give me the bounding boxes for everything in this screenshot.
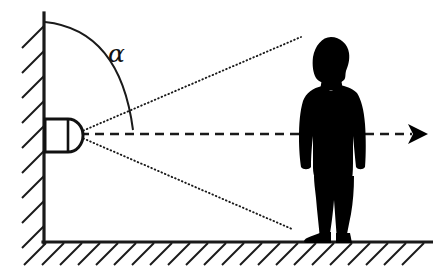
person-torso [299,85,366,179]
person-silhouette [299,37,366,243]
sensor-angle-diagram: α [0,0,433,272]
person-legs [314,176,354,240]
wall [22,13,44,248]
angle-label-alpha: α [108,39,125,68]
lower-detection-ray [80,137,292,229]
ground-hatching [24,243,424,265]
diagram-canvas: α [0,0,433,272]
person-left-foot [304,232,331,243]
wall-hatching [22,26,44,248]
ground [24,242,433,265]
person-head [313,37,350,84]
sensor-housing [45,119,83,152]
person-right-foot [336,233,352,243]
motion-sensor [45,119,83,152]
